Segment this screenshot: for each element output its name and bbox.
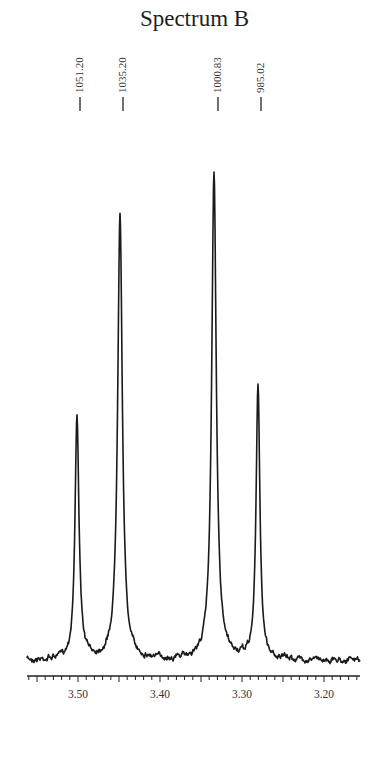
x-tick-label: 3.30 xyxy=(232,688,252,700)
peak-label: 1035.20 xyxy=(116,57,128,93)
peak-label: 985.02 xyxy=(254,63,266,93)
peak-label: 1000.83 xyxy=(211,57,223,93)
spectrum-trace xyxy=(27,172,360,663)
peak-label: 1051.20 xyxy=(73,57,85,93)
x-tick-label: 3.40 xyxy=(150,688,170,700)
x-tick-label: 3.50 xyxy=(68,688,88,700)
x-tick-label: 3.20 xyxy=(314,688,334,700)
peak-label-markers xyxy=(80,97,261,111)
x-axis xyxy=(27,676,360,682)
spectrum-plot xyxy=(0,0,389,758)
